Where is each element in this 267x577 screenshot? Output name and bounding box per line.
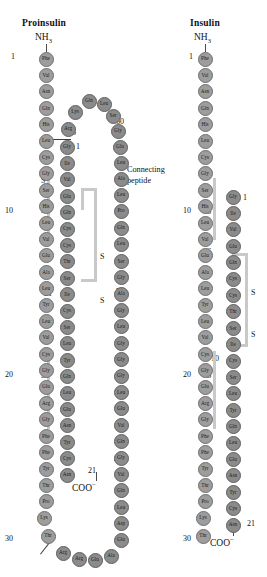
insulin-b-residue-9: Ser [198, 183, 213, 198]
n-terminus-stem [46, 44, 47, 52]
insulin-title: Insulin [190, 18, 220, 28]
nh3-subscript: 3 [49, 37, 52, 44]
insulin-nh3-text: NH [194, 32, 208, 42]
proinsulin-b-residue-27: Thr [39, 478, 54, 493]
insulin-b-residue-6: Leu [198, 134, 213, 149]
insulin-n-terminus-stem [205, 44, 206, 52]
insulin-a-residue-13: Leu [226, 386, 241, 401]
c-peptide-residue-19: Gly [114, 303, 129, 318]
disulfide-label-right-3: S [251, 288, 255, 297]
proinsulin-a-residue-17: Glu [60, 402, 75, 417]
proinsulin-b-residue-26: Tyr [39, 462, 54, 477]
insulin-a-residue-1: Gly [226, 190, 241, 205]
proinsulin-a-residue-6: Cys [60, 222, 75, 237]
insulin-b-residue-1: Phe [198, 52, 213, 67]
insulin-b-residue-26: Tyr [198, 462, 213, 477]
disulfide-bar-right-2 [245, 253, 248, 347]
insulin-b-residue-14: Ala [198, 265, 213, 280]
c-peptide-residue-2: Arg [72, 552, 87, 567]
insulin-nh3-subscript: 3 [208, 37, 211, 44]
insulin-a-residue-3: Val [226, 222, 241, 237]
proinsulin-b-residue-8: Gly [39, 166, 54, 181]
insulin-a-residue-5: Gln [226, 255, 241, 270]
proinsulin-b-residue-19: Cys [39, 347, 54, 362]
insulin-b-residue-22: Arg [198, 396, 213, 411]
nh3-text: NH [35, 32, 49, 42]
insulin-a-residue-9: Ser [226, 321, 241, 336]
c-peptide-residue-34: Lys [68, 105, 83, 120]
insulin-coo-text: COO [210, 538, 230, 548]
insulin-b-residue-24: Phe [198, 429, 213, 444]
proinsulin-a-residue-14: Tyr [60, 353, 75, 368]
insulin-a-residue-15: Gln [226, 419, 241, 434]
insulin-b-residue-10: His [198, 199, 213, 214]
insulin-b-residue-18: Val [198, 330, 213, 345]
disulfide-link-left-b [81, 279, 97, 282]
c-peptide-residue-32: Leu [97, 97, 112, 112]
c-peptide-residue-7: Leu [114, 500, 129, 515]
proinsulin-b-residue-9: Ser [39, 183, 54, 198]
proinsulin-b-residue-5: His [39, 117, 54, 132]
disulfide-bar-right-3 [213, 351, 216, 429]
c-peptide-residue-24: Gln [114, 221, 129, 236]
c-peptide-residue-26: Leu [114, 188, 129, 203]
proinsulin-b-residue-6: Leu [39, 134, 54, 149]
coo-text: COO [72, 483, 92, 493]
insulin-a-residue-6: Cys [226, 272, 241, 287]
disulfide-bar-right-1 [213, 178, 216, 240]
proinsulin-b-residue-24: Phe [39, 429, 54, 444]
label-a21-left: 21 [88, 466, 96, 475]
c-peptide-residue-5: Glu [114, 533, 129, 548]
insulin-b-residue-19: Cys [198, 347, 213, 362]
c-peptide-residue-27: Ala [114, 172, 129, 187]
insulin-a-residue-21: Asn [226, 518, 241, 533]
label-a1-left: 1 [76, 142, 80, 151]
insulin-a-residue-16: Leu [226, 436, 241, 451]
label-b10-left: 10 [5, 206, 13, 215]
label-a1-right: 1 [243, 193, 247, 202]
disulfide-bar-left-3 [94, 188, 97, 282]
c-peptide-residue-10: Gly [114, 451, 129, 466]
label-b1-right: 1 [189, 52, 193, 61]
c-peptide-residue-13: Glu [114, 401, 129, 416]
c-peptide-residue-11: Gln [114, 434, 129, 449]
label-a21-right: 21 [247, 519, 255, 528]
proinsulin-a-residue-13: Leu [60, 336, 75, 351]
proinsulin-a-residue-21: Asn [60, 468, 75, 483]
c-peptide-residue-18: Leu [114, 319, 129, 334]
insulin-b-residue-12: Val [198, 232, 213, 247]
proinsulin-n-terminus: NH3 [35, 32, 52, 44]
insulin-a-residue-12: Ser [226, 370, 241, 385]
insulin-b-residue-17: Leu [198, 314, 213, 329]
proinsulin-title: Proinsulin [22, 18, 66, 28]
coo-superscript: − [92, 481, 96, 489]
insulin-b-residue-28: Pro [198, 494, 213, 509]
annotation-line-1: Connecting [127, 165, 165, 174]
insulin-c-terminus: COO− [210, 536, 234, 548]
proinsulin-a-residue-5: Gln [60, 205, 75, 220]
proinsulin-b-residue-15: Leu [39, 281, 54, 296]
proinsulin-b-residue-25: Phe [39, 445, 54, 460]
proinsulin-b-residue-18: Val [39, 330, 54, 345]
c-peptide-residue-25: Pro [114, 204, 129, 219]
c-peptide-residue-8: Gln [114, 483, 129, 498]
insulin-b-residue-13: Glu [198, 248, 213, 263]
insulin-a-residue-2: Ile [226, 206, 241, 221]
insulin-b-residue-23: Gly [198, 412, 213, 427]
c-peptide-residue-30: Gly [111, 124, 126, 139]
insulin-a-residue-14: Tyr [226, 403, 241, 418]
c-peptide-residue-20: Ala [114, 287, 129, 302]
proinsulin-b-residue-7: Cys [39, 150, 54, 165]
insulin-a-residue-7: Cys [226, 288, 241, 303]
insulin-n-terminus: NH3 [194, 32, 211, 44]
c-peptide-residue-9: Val [114, 467, 129, 482]
insulin-a-residue-10: Ile [226, 337, 241, 352]
insulin-b-residue-8: Gly [198, 166, 213, 181]
proinsulin-a-residue-10: Ile [60, 287, 75, 302]
label-b1-left: 1 [11, 52, 15, 61]
proinsulin-b-residue-2: Val [39, 68, 54, 83]
disulfide-label-left-3: S [100, 252, 104, 261]
c-peptide-residue-6: Asp [114, 516, 129, 531]
proinsulin-b-residue-29: Lys [37, 511, 52, 526]
c-peptide-residue-4: Ala [104, 549, 119, 564]
